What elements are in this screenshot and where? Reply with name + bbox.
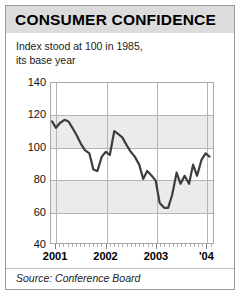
source-note: Source: Conference Board (16, 272, 140, 284)
x-axis-minor-tick (114, 244, 115, 247)
x-axis-minor-tick (185, 244, 186, 247)
series-path (52, 120, 210, 208)
x-axis-labels: 200120022003'04 (50, 250, 220, 266)
x-axis-minor-tick (127, 244, 128, 247)
x-axis-minor-tick (131, 244, 132, 247)
x-axis-major-tick (156, 244, 157, 249)
subtitle-line-2: its base year (16, 54, 226, 68)
source-divider (6, 268, 234, 269)
x-axis-minor-tick (160, 244, 161, 247)
y-axis-tick-label: 120 (4, 108, 46, 120)
x-axis-minor-tick (97, 244, 98, 247)
y-axis-labels: 406080100120140 (0, 82, 46, 244)
x-axis-minor-tick (63, 244, 64, 247)
chart-title-band: CONSUMER CONFIDENCE (6, 6, 234, 33)
x-axis-minor-tick (72, 244, 73, 247)
x-axis-tick-label: 2002 (93, 250, 117, 262)
x-axis-minor-tick (80, 244, 81, 247)
y-axis-tick-label: 80 (4, 173, 46, 185)
x-axis-minor-tick (164, 244, 165, 247)
x-axis-minor-tick (202, 244, 203, 247)
x-axis-minor-tick (173, 244, 174, 247)
x-axis-tick-label: 2001 (43, 250, 67, 262)
x-axis-minor-tick (211, 244, 212, 247)
x-axis-minor-tick (93, 244, 94, 247)
y-axis-tick-label: 60 (4, 206, 46, 218)
x-axis-minor-tick (122, 244, 123, 247)
x-axis-minor-tick (84, 244, 85, 247)
subtitle-line-1: Index stood at 100 in 1985, (16, 40, 226, 54)
x-axis-minor-tick (89, 244, 90, 247)
x-axis-minor-tick (135, 244, 136, 247)
consumer-confidence-chart-figure: CONSUMER CONFIDENCE Index stood at 100 i… (0, 0, 241, 303)
x-axis-minor-tick (118, 244, 119, 247)
x-axis-minor-tick (194, 244, 195, 247)
x-axis-minor-tick (101, 244, 102, 247)
y-axis-tick-label: 140 (4, 76, 46, 88)
chart-subtitle: Index stood at 100 in 1985, its base yea… (16, 40, 226, 67)
x-axis-minor-tick (198, 244, 199, 247)
page-title: CONSUMER CONFIDENCE (15, 11, 216, 29)
x-axis-minor-tick (148, 244, 149, 247)
x-axis-minor-tick (181, 244, 182, 247)
data-line-series (51, 83, 213, 243)
x-axis-minor-tick (68, 244, 69, 247)
x-axis-minor-tick (59, 244, 60, 247)
x-axis-minor-tick (76, 244, 77, 247)
x-axis-minor-tick (177, 244, 178, 247)
x-axis-major-tick (106, 244, 107, 249)
x-axis-minor-tick (143, 244, 144, 247)
y-axis-tick-label: 100 (4, 141, 46, 153)
x-axis-minor-tick (169, 244, 170, 247)
x-axis-minor-tick (152, 244, 153, 247)
x-axis-major-tick (206, 244, 207, 249)
x-axis-tick-label: '04 (199, 250, 214, 262)
y-axis-tick-label: 40 (4, 238, 46, 250)
x-axis-minor-tick (110, 244, 111, 247)
x-axis-minor-tick (190, 244, 191, 247)
plot-area (50, 82, 214, 244)
x-axis-tick-label: 2003 (144, 250, 168, 262)
x-axis-minor-tick (139, 244, 140, 247)
x-axis-major-tick (55, 244, 56, 249)
